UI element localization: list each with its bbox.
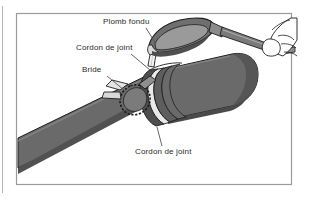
hand-finger-grip <box>262 39 280 56</box>
technical-illustration <box>0 0 315 199</box>
label-plomb-fondu: Plomb fondu <box>103 18 150 26</box>
clamp-lug-lower <box>102 92 121 99</box>
label-cordon-de-joint-top: Cordon de joint <box>76 44 133 52</box>
figure-canvas: Plomb fondu Cordon de joint Bride Cordon… <box>0 0 315 199</box>
label-bride: Bride <box>82 66 101 74</box>
label-cordon-de-joint-bottom: Cordon de joint <box>135 148 192 156</box>
